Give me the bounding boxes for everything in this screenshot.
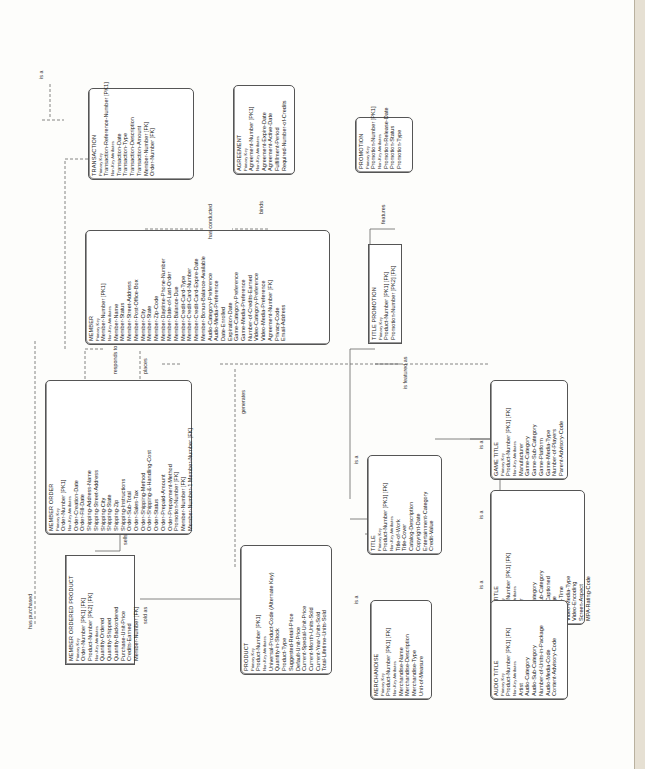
- entity-member-order[interactable]: MEMBER ORDER Primary Key Order-Number [P…: [45, 380, 192, 535]
- attr: Shipping-City: [100, 384, 107, 531]
- attr: Video-Media-Preference: [260, 234, 267, 341]
- attr: MPA-Rating-Code: [585, 494, 592, 621]
- rel-is-a-transaction: is a: [38, 71, 44, 79]
- attr: Audio-Category-Preference: [207, 234, 214, 341]
- attr: Current-Year-Units-Sold: [315, 549, 322, 671]
- attr: Promotion-Number [FK]: [173, 384, 180, 531]
- attr: Game-Platform: [538, 384, 545, 476]
- entity-promotion[interactable]: PROMOTION Primary Key Promotion-Number […: [355, 117, 413, 173]
- rel-sold-as: sold as: [142, 607, 148, 624]
- entity-name: MERCHANDISE: [373, 604, 380, 696]
- entity-agreement[interactable]: AGREEMENT Primary Key Agreement-Number […: [233, 85, 295, 175]
- rel-places: places: [142, 358, 148, 374]
- attr: Quantity-in-Stock: [274, 549, 281, 671]
- pk-attr: Product-Number [PK1] [FK]: [505, 604, 512, 696]
- attr: Merchandise-Name: [398, 604, 405, 696]
- entity-name: GAME TITLE: [493, 384, 500, 476]
- attr: Date-Enrolled: [220, 234, 227, 341]
- entity-name: TITLE: [370, 459, 377, 551]
- attr: Number-of-Credits-Earned: [247, 234, 254, 341]
- attr: Game-Category-Preference: [233, 234, 240, 341]
- rel-has-conducted: has conducted: [207, 204, 213, 239]
- attr: Member-Number [FK]: [143, 92, 150, 176]
- attr: Unit-of-Measure: [418, 604, 425, 696]
- entity-member-ordered-product[interactable]: MEMBER ORDERED PRODUCT Primary Key Order…: [65, 555, 135, 665]
- entity-audio-title[interactable]: AUDIO TITLE Primary Key Product-Number […: [490, 600, 568, 700]
- attr: Title-Cover: [401, 459, 408, 551]
- pk-attr: Transaction-Reference-Number [PK1]: [103, 92, 110, 176]
- attr: Member-Name: [113, 234, 120, 341]
- entity-title[interactable]: TITLE Primary Key Product-Number [PK1] […: [367, 455, 442, 555]
- attr: Suggested-Retail-Price: [288, 549, 295, 671]
- attr: Promotion-Status: [389, 121, 396, 169]
- attr: Universal-Product-Code (Alternate Key): [268, 549, 275, 671]
- attr: Required-Number-of-Credits: [281, 89, 288, 171]
- attr: Copyright-Date: [415, 459, 422, 551]
- pk-attr: Promotion-Number [PK2] [FK]: [390, 248, 397, 340]
- pk-attr: Product-Number [PK1] [FK]: [505, 384, 512, 476]
- pk-attr: Product-Number [PK2] [FK]: [87, 559, 94, 661]
- attr: Shipping-Instructions: [120, 384, 127, 531]
- pk-attr: Product-Number [PK1]: [255, 549, 262, 671]
- attr: Member-Bonus-Balance-Available: [200, 234, 207, 341]
- pk-attr: Product-Number [PK1] [FK]: [382, 459, 389, 551]
- pk-attr: Member-Number [PK1]: [100, 234, 107, 341]
- rel-responds-to: responds to: [112, 346, 118, 374]
- attr: Member-Balance-Due: [173, 234, 180, 341]
- attr: Agreement-Expire-Date: [261, 89, 268, 171]
- attr: Expiration-Date: [227, 234, 234, 341]
- attr: Member-Number [FK]: [180, 384, 187, 531]
- attr: Promotion-Type: [396, 121, 403, 169]
- entity-member[interactable]: MEMBER Primary Key Member-Number [PK1] N…: [85, 230, 330, 345]
- attr: Default-Unit-Price: [295, 549, 302, 671]
- attr: Member-Post-Office-Box: [133, 234, 140, 341]
- rel-is-featured-as: is featured as: [402, 357, 408, 389]
- entity-game-title[interactable]: GAME TITLE Primary Key Product-Number [P…: [490, 380, 568, 480]
- attr: Shipping-Address-Name: [86, 384, 93, 531]
- entity-title-promotion[interactable]: TITLE PROMOTION Primary Key Product-Numb…: [368, 244, 402, 344]
- attr: Credits-Earned: [126, 559, 133, 661]
- attr: Order-Shipping-&-Handling-Cost: [146, 384, 153, 531]
- attr: Product-Type: [281, 549, 288, 671]
- attr: Member-State: [146, 234, 153, 341]
- attr: Member-Date-of-Last-Order: [166, 234, 173, 341]
- rel-sells: sells: [122, 534, 128, 545]
- attr: Order-Fill-Date: [79, 384, 86, 531]
- attr: Manufacturer: [518, 384, 525, 476]
- attr: Transaction-Description: [129, 92, 136, 176]
- entity-name: TRANSACTION: [91, 92, 98, 176]
- entity-name: TITLE PROMOTION: [371, 248, 378, 340]
- entity-name: MEMBER ORDER: [48, 384, 55, 531]
- entity-name: PROMOTION: [358, 121, 365, 169]
- pk-attr: Promotion-Number [PK1]: [370, 121, 377, 169]
- rel-features: features: [380, 205, 386, 224]
- pk-attr: Product-Number [PK1] [FK]: [383, 248, 390, 340]
- attr: Email-Address: [280, 234, 287, 341]
- attr: Order-Prepaid-Amount: [160, 384, 167, 531]
- attr: Member-Street-Address: [126, 234, 133, 341]
- attr: Member-Number [FK]: [133, 559, 140, 661]
- entity-transaction[interactable]: TRANSACTION Primary Key Transaction-Refe…: [88, 88, 194, 180]
- pk-attr: Product-Number [PK1] [FK]: [385, 604, 392, 696]
- attr: Current-Special-Unit-Price: [301, 549, 308, 671]
- attr: Order-Status: [153, 384, 160, 531]
- attr: Number-of-Players: [551, 384, 558, 476]
- attr: Merchandise-Description: [404, 604, 411, 696]
- attr: Order-Creation-Date: [73, 384, 80, 531]
- entity-merchandise[interactable]: MERCHANDISE Primary Key Product-Number […: [370, 600, 432, 700]
- attr: Game-Media-Preference: [240, 234, 247, 341]
- attr: Transaction-Date: [116, 92, 123, 176]
- attr: Order-Shipping-Method: [140, 384, 147, 531]
- attr: Credit-Value: [428, 459, 435, 551]
- entity-product[interactable]: PRODUCT Primary Key Product-Number [PK1]…: [240, 545, 332, 675]
- attr: Shipping-State: [106, 384, 113, 531]
- pk-attr: Order-Number [PK1]: [60, 384, 67, 531]
- attr: Agreement-Number [FK]: [267, 234, 274, 341]
- attr: Quantity-Ordered: [99, 559, 106, 661]
- attr: Total-Lifetime-Units-Sold: [321, 549, 328, 671]
- attr: Video-Category-Preference: [253, 234, 260, 341]
- attr: Order-Sales-Tax: [133, 384, 140, 531]
- attr: Audio-Category: [524, 604, 531, 696]
- entity-name: MEMBER ORDERED PRODUCT: [68, 559, 75, 661]
- attr: Audio-Media-Code: [545, 604, 552, 696]
